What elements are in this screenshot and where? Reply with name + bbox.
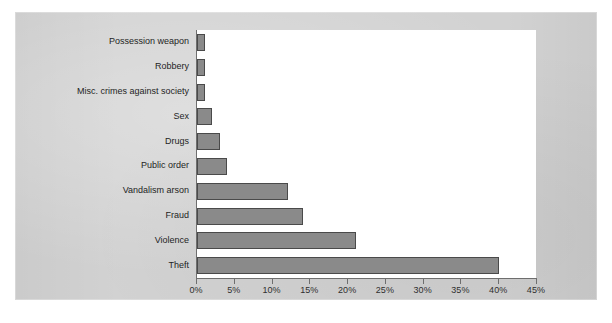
x-axis-line [196,278,537,279]
category-label: Vandalism arson [123,185,189,196]
x-axis-tick-label: 0% [176,285,216,295]
x-axis-tick-label: 25% [365,285,405,295]
x-axis-tick [423,279,424,284]
x-axis-tick-label: 15% [289,285,329,295]
x-axis-tick-label: 35% [440,285,480,295]
bar [197,84,205,101]
bar [197,34,205,51]
category-label: Theft [168,260,189,271]
chart-page: 0%5%10%15%20%25%30%35%40%45%Possession w… [0,0,612,323]
x-axis-tick [272,279,273,284]
category-label: Violence [155,235,189,246]
x-axis-tick-label: 45% [516,285,556,295]
x-axis-tick [196,279,197,284]
category-label: Misc. crimes against society [77,86,189,97]
bar [197,133,220,150]
x-axis-tick [385,279,386,284]
x-axis-tick-label: 40% [478,285,518,295]
x-axis-tick [347,279,348,284]
x-axis-tick-label: 30% [403,285,443,295]
category-label: Possession weapon [109,36,189,47]
category-label: Robbery [155,61,189,72]
x-axis-tick [309,279,310,284]
x-axis-tick-label: 10% [252,285,292,295]
x-axis-tick-label: 20% [327,285,367,295]
bar [197,183,288,200]
bar [197,158,227,175]
bar [197,232,356,249]
bar-chart: 0%5%10%15%20%25%30%35%40%45%Possession w… [15,12,597,300]
bar [197,208,303,225]
category-label: Public order [141,160,189,171]
bar [197,59,205,76]
bar [197,257,499,274]
x-axis-tick [498,279,499,284]
category-label: Fraud [165,210,189,221]
x-axis-tick-label: 5% [214,285,254,295]
bar [197,108,212,125]
figure-panel: 0%5%10%15%20%25%30%35%40%45%Possession w… [15,12,597,300]
x-axis-tick [460,279,461,284]
x-axis-tick [234,279,235,284]
x-axis-tick [536,279,537,284]
category-label: Drugs [165,136,189,147]
category-label: Sex [173,111,189,122]
caption-strip [15,303,597,317]
